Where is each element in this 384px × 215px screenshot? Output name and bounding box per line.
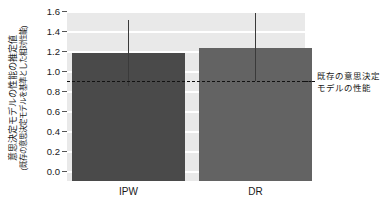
y-axis-title: 意思決定モデルの性能の推定値 (既存の意思決定モデルを基準とした相対性能) (0, 0, 36, 195)
reference-line (67, 81, 305, 82)
y-axis-tick-labels: 1.6 1.4 1.2 1.0 0.8 0.6 0.4 0.2 0.0 (36, 0, 60, 215)
y-tick-label: 1.0 (36, 66, 60, 77)
y-axis-title-sub: (既存の意思決定モデルを基準とした相対性能) (19, 25, 28, 170)
error-bar-ipw (128, 20, 130, 86)
reference-line-leader (305, 81, 315, 82)
annotation-line-1: 既存の意思決定 (317, 70, 380, 82)
y-tick-label: 0.8 (36, 86, 60, 97)
annotation-line-2: モデルの性能 (317, 82, 380, 94)
gridline (67, 11, 305, 13)
y-tick-label: 1.2 (36, 46, 60, 57)
plot-area (67, 11, 305, 181)
x-tick-label-dr: DR (248, 186, 262, 197)
y-axis-title-main: 意思決定モデルの性能の推定値 (8, 25, 19, 170)
error-bar-dr (255, 13, 257, 81)
bar-chart-figure: 意思決定モデルの性能の推定値 (既存の意思決定モデルを基準とした相対性能) 1.… (0, 0, 384, 215)
reference-line-annotation: 既存の意思決定 モデルの性能 (317, 70, 380, 95)
y-tick-label: 0.6 (36, 106, 60, 117)
y-tick-label: 1.6 (36, 6, 60, 17)
y-tick-label: 0.4 (36, 126, 60, 137)
y-tick-label: 0.2 (36, 146, 60, 157)
x-tick-label-ipw: IPW (119, 186, 138, 197)
gridline (67, 31, 305, 33)
y-tick-label: 0.0 (36, 166, 60, 177)
y-tick-label: 1.4 (36, 26, 60, 37)
